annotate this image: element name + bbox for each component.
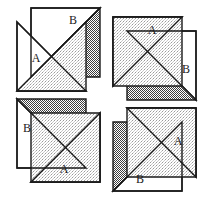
label-bottom-left-a: A (60, 162, 69, 176)
pinwheel-diagram: B A A B B A A B (0, 0, 213, 199)
label-bottom-left-b: B (23, 121, 31, 135)
figure-container: B A A B B A A B (0, 0, 213, 199)
label-top-left-b: B (69, 13, 77, 27)
label-top-left-a: A (32, 51, 41, 65)
label-top-right-a: A (148, 23, 157, 37)
label-bottom-right-b: B (136, 172, 144, 186)
label-top-right-b: B (182, 62, 190, 76)
label-bottom-right-a: A (174, 134, 183, 148)
center-gap (100, 93, 114, 107)
